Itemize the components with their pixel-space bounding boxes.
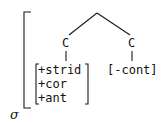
feature-tree-diagram: σ C C +strid +cor +ant [-cont] xyxy=(0,0,164,124)
c-node-right: C xyxy=(128,36,135,50)
feature-cont: [-cont] xyxy=(107,63,158,77)
left-feature-matrix: +strid +cor +ant xyxy=(36,63,88,105)
syllable-bracket xyxy=(24,12,31,108)
c-node-left: C xyxy=(62,36,69,50)
feature-strid: +strid xyxy=(38,63,81,77)
feature-ant: +ant xyxy=(38,91,67,105)
tree-branches xyxy=(69,13,130,35)
feature-cor: +cor xyxy=(38,77,67,91)
sigma-label: σ xyxy=(10,107,20,122)
